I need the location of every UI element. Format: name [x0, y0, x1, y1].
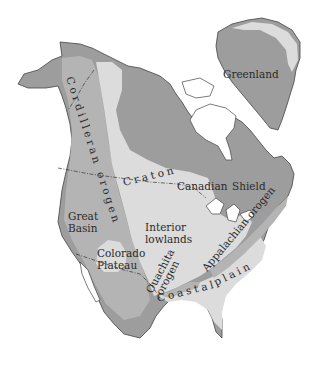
- label-great: Great: [68, 210, 99, 222]
- north-america-geologic-map: Greenland Cordilleran orogen Craton Cana…: [0, 0, 328, 383]
- label-interior: Interior: [145, 221, 187, 233]
- label-shield: Shield: [232, 180, 266, 192]
- arctic-channel: [182, 78, 214, 98]
- label-lowlands: lowlands: [145, 233, 192, 245]
- label-greenland: Greenland: [223, 68, 279, 80]
- label-basin: Basin: [68, 222, 98, 234]
- label-canadian: Canadian: [177, 180, 228, 192]
- label-plateau: Plateau: [97, 259, 137, 271]
- label-colorado: Colorado: [97, 247, 145, 259]
